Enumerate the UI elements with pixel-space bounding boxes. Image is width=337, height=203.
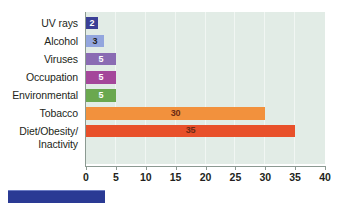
x-axis-tick-label: 5 xyxy=(113,171,119,183)
category-label-environmental: Environmental xyxy=(0,86,82,104)
category-label-uv-rays: UV rays xyxy=(0,14,82,32)
category-label-text-line2: Inactivity xyxy=(38,138,78,151)
bar-row: 30 xyxy=(86,104,325,122)
bar-series: 2 3 5 5 5 30 xyxy=(86,14,325,153)
bar-environmental: 5 xyxy=(86,89,116,102)
x-axis-tick xyxy=(206,166,207,170)
bar-row: 35 xyxy=(86,123,325,153)
bar-row: 3 xyxy=(86,32,325,50)
category-label-tobacco: Tobacco xyxy=(0,104,82,122)
bar-value-label: 30 xyxy=(171,109,181,118)
bar-viruses: 5 xyxy=(86,53,116,66)
x-axis-tick xyxy=(176,166,177,170)
x-axis-tick-label: 25 xyxy=(230,171,242,183)
bar-value-label: 5 xyxy=(99,55,104,64)
x-axis-tick xyxy=(265,166,266,170)
bottom-accent-bar xyxy=(8,190,105,203)
bar-tobacco: 30 xyxy=(86,107,265,120)
x-axis-tick-label: 40 xyxy=(319,171,331,183)
bar-value-label: 5 xyxy=(99,73,104,82)
bar-diet-obesity-inactivity: 35 xyxy=(86,125,295,138)
bar-value-label: 5 xyxy=(99,91,104,100)
category-label-text-line1: Diet/Obesity/ xyxy=(19,125,78,138)
x-axis-tick xyxy=(325,166,326,170)
category-label-text: Viruses xyxy=(44,54,78,65)
category-label-text: Tobacco xyxy=(40,108,78,119)
x-axis-tick-label: 10 xyxy=(140,171,152,183)
bar-row: 5 xyxy=(86,68,325,86)
bar-value-label: 2 xyxy=(90,19,95,28)
bar-alcohol: 3 xyxy=(86,35,104,48)
bar-value-label: 3 xyxy=(93,37,98,46)
category-label-viruses: Viruses xyxy=(0,50,82,68)
bar-uv-rays: 2 xyxy=(86,17,98,30)
category-label-alcohol: Alcohol xyxy=(0,32,82,50)
bar-row: 2 xyxy=(86,14,325,32)
x-axis-tick-label: 15 xyxy=(170,171,182,183)
bar-occupation: 5 xyxy=(86,71,116,84)
x-axis-tick xyxy=(116,166,117,170)
bar-row: 5 xyxy=(86,50,325,68)
category-label-text: Alcohol xyxy=(44,36,78,47)
x-axis-tick xyxy=(146,166,147,170)
category-label-text: UV rays xyxy=(41,18,78,29)
bar-row: 5 xyxy=(86,86,325,104)
category-label-diet-obesity-inactivity: Diet/Obesity/ Inactivity xyxy=(0,123,82,153)
x-axis-tick-label: 35 xyxy=(289,171,301,183)
x-axis-tick xyxy=(86,166,87,170)
category-label-text: Occupation xyxy=(26,72,78,83)
x-axis-tick-label: 30 xyxy=(259,171,271,183)
x-axis-tick-label: 20 xyxy=(200,171,212,183)
category-label-occupation: Occupation xyxy=(0,68,82,86)
horizontal-bar-chart: UV rays Alcohol Viruses Occupation Envir… xyxy=(0,0,337,203)
x-axis-tick xyxy=(235,166,236,170)
x-axis-tick xyxy=(295,166,296,170)
x-axis-tick-label: 0 xyxy=(83,171,89,183)
category-label-text: Environmental xyxy=(12,90,78,101)
bar-value-label: 35 xyxy=(186,126,196,135)
category-label-column: UV rays Alcohol Viruses Occupation Envir… xyxy=(0,14,82,153)
